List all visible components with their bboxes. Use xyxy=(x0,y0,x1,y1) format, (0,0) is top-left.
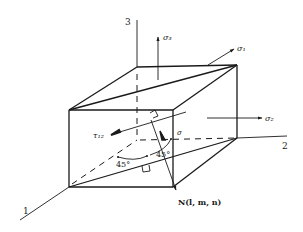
axis-1-label: 1 xyxy=(23,206,29,216)
angle-label-a: 45° xyxy=(116,160,130,169)
angle-label-b: 45° xyxy=(156,150,170,159)
tau-12-label: τ₁₂ xyxy=(93,131,104,140)
axis-2-label: 2 xyxy=(282,141,288,151)
tau-12-arrow xyxy=(111,112,186,135)
sigma-2-label: σ₂ xyxy=(265,114,274,123)
stress-element-diagram: 3 1 2 σ₃ σ₁ σ₂ τ₁₂ σ 45° 45° N(l, m, n) xyxy=(0,0,303,232)
normal-vector-label: N(l, m, n) xyxy=(178,197,222,207)
sigma-1-arrow xyxy=(208,49,234,65)
sigma-3-label: σ₃ xyxy=(163,33,172,42)
sigma-1-label: σ₁ xyxy=(237,44,246,53)
sigma-label: σ xyxy=(177,129,182,137)
axis-3-label: 3 xyxy=(125,17,131,27)
